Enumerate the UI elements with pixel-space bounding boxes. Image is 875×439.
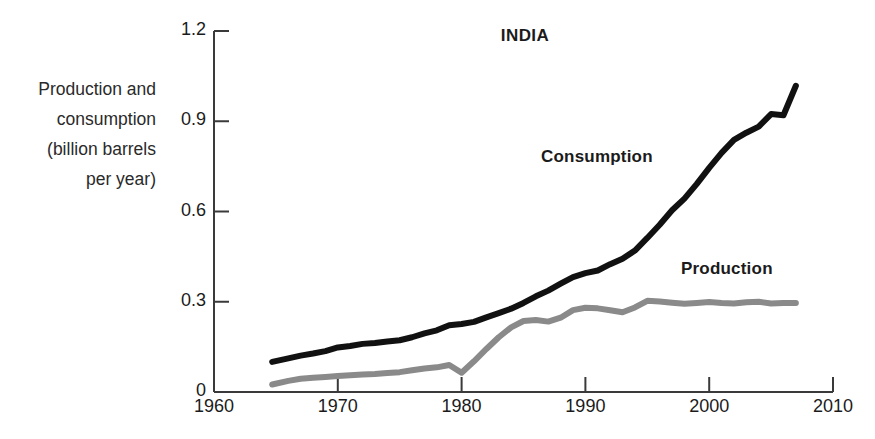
plot-area <box>0 0 875 439</box>
series-line-production <box>272 301 796 385</box>
y-axis-ticks <box>214 31 229 302</box>
axis-lines <box>214 31 833 392</box>
chart-figure: Production andconsumption(billion barrel… <box>0 0 875 439</box>
x-axis-ticks <box>338 377 833 392</box>
data-series-group <box>272 86 796 385</box>
